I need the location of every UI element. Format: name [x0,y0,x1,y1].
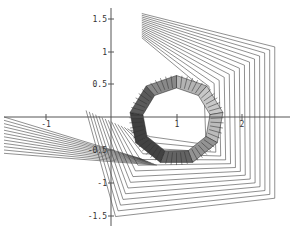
y-tick-label: 1 [102,48,107,57]
axes [4,8,290,226]
y-tick-label: 0.5 [93,80,108,89]
tube-segment [188,136,217,162]
outer-frame-mesh [86,14,275,217]
x-tick-label: -1 [41,120,51,129]
x-tick-label: 1 [175,120,180,129]
frame-line [86,14,275,217]
frame-line [96,19,260,200]
y-ticks: 1.510.5-0.5-1-1.5 [88,15,114,221]
y-tick-label: -0.5 [88,146,107,155]
fan-line [4,140,151,163]
x-tick-label: 2 [240,120,245,129]
y-tick-label: -1 [97,179,107,188]
frame-line [92,17,264,205]
fan-line [4,147,154,164]
fan-line [4,124,143,160]
y-tick-label: -1.5 [88,212,107,221]
y-tick-label: 1.5 [93,15,108,24]
fan-line [4,130,146,161]
frame-line [89,15,270,211]
parametric-plot: -112 1.510.5-0.5-1-1.5 [0,0,295,239]
